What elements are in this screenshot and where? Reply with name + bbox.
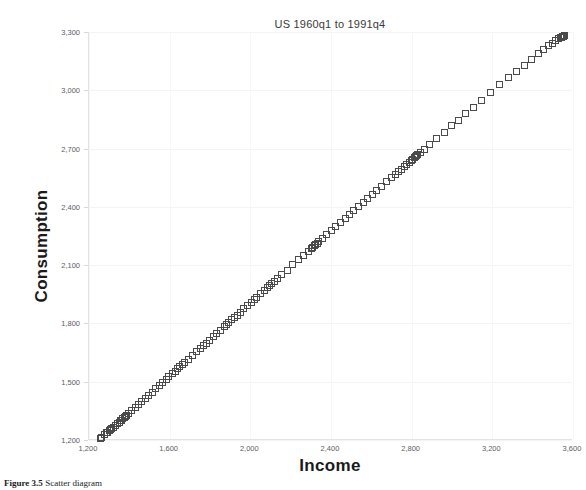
y-tick-mark xyxy=(84,382,88,383)
y-tick-label: 2,700 xyxy=(0,144,80,153)
x-tick-label: 2,400 xyxy=(321,444,340,453)
chart-title: US 1960q1 to 1991q4 xyxy=(88,18,572,30)
y-tick-label: 3,300 xyxy=(0,28,80,37)
gridline-horizontal xyxy=(89,440,572,441)
caption-figure-number: Figure 3.5 xyxy=(4,478,43,488)
data-point xyxy=(513,68,520,75)
x-tick-label: 3,200 xyxy=(482,444,501,453)
data-point xyxy=(426,141,433,148)
data-point xyxy=(462,110,469,117)
y-tick-mark xyxy=(84,265,88,266)
data-point xyxy=(478,97,485,104)
gridline-vertical xyxy=(573,32,574,439)
x-tick-label: 2,800 xyxy=(401,444,420,453)
data-point xyxy=(441,129,448,136)
data-point xyxy=(433,135,440,142)
y-tick-mark xyxy=(84,90,88,91)
caption-figure-text: Scatter diagram xyxy=(45,478,102,488)
y-tick-mark xyxy=(84,323,88,324)
y-axis-title: Consumption xyxy=(32,166,52,326)
x-tick-label: 1,200 xyxy=(79,444,98,453)
data-point xyxy=(505,74,512,81)
y-tick-label: 1,500 xyxy=(0,377,80,386)
figure-container: US 1960q1 to 1991q4 1,2001,5001,8002,100… xyxy=(0,0,586,490)
data-point xyxy=(521,62,528,69)
figure-caption: Figure 3.5 Scatter diagram xyxy=(4,478,102,488)
data-point xyxy=(496,81,503,88)
data-point xyxy=(470,104,477,111)
plot-area xyxy=(88,32,572,440)
x-tick-label: 3,600 xyxy=(563,444,582,453)
y-tick-mark xyxy=(84,32,88,33)
data-point xyxy=(561,32,568,39)
y-tick-mark xyxy=(84,149,88,150)
x-tick-label: 1,600 xyxy=(159,444,178,453)
y-tick-label: 1,200 xyxy=(0,436,80,445)
y-tick-mark xyxy=(84,440,88,441)
x-tick-label: 2,000 xyxy=(240,444,259,453)
y-tick-mark xyxy=(84,207,88,208)
scatter-points-layer xyxy=(89,32,572,439)
data-point xyxy=(455,117,462,124)
y-tick-label: 3,000 xyxy=(0,86,80,95)
x-axis-title: Income xyxy=(88,456,572,476)
data-point xyxy=(487,89,494,96)
